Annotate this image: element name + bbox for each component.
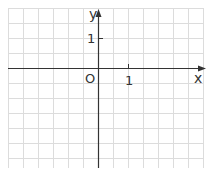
x-axis-label: x [194, 71, 202, 85]
grid-and-axes [0, 0, 210, 170]
grid [8, 8, 204, 168]
coordinate-plane: y 1 O 1 x [0, 0, 210, 170]
x-unit-label: 1 [125, 74, 133, 87]
origin-label: O [85, 72, 95, 85]
y-axis-label: y [89, 7, 97, 21]
y-unit-label: 1 [87, 32, 95, 45]
